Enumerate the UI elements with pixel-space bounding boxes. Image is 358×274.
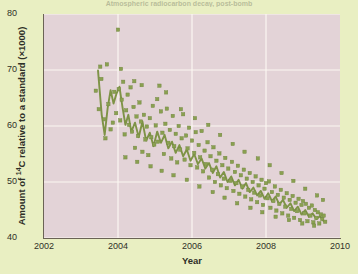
data-point (104, 137, 107, 140)
data-point (312, 221, 315, 224)
data-point (230, 160, 233, 163)
data-point (170, 157, 173, 160)
y-axis-title-prefix: Amount of (16, 175, 27, 225)
data-point (210, 168, 213, 171)
y-tick-label-40: 40 (0, 233, 17, 242)
data-point (133, 146, 136, 149)
data-point (185, 178, 188, 181)
data-point (249, 206, 252, 209)
data-point (154, 124, 157, 127)
data-point (238, 192, 241, 195)
data-point (244, 195, 247, 198)
data-point (114, 111, 117, 114)
data-point (181, 113, 184, 116)
data-point (233, 170, 236, 173)
data-point (219, 184, 222, 187)
y-tick-label-50: 50 (0, 177, 17, 186)
y-axis-title-suffix: C relative to a standard (×1000) (16, 27, 27, 168)
data-point (156, 140, 159, 143)
data-point (285, 192, 288, 195)
data-point (266, 197, 269, 200)
data-point (145, 125, 148, 128)
data-point (200, 129, 203, 132)
data-point (231, 142, 234, 145)
data-point (206, 141, 209, 144)
data-point (275, 209, 278, 212)
data-point (257, 184, 260, 187)
data-point (127, 123, 130, 126)
data-point (94, 89, 97, 92)
data-point (147, 153, 150, 156)
x-axis-title: Year (44, 255, 340, 266)
data-point (177, 124, 180, 127)
data-point (288, 198, 291, 201)
data-point (132, 105, 135, 108)
data-point (158, 84, 161, 87)
data-point (280, 171, 283, 174)
data-point (254, 175, 257, 178)
data-point (256, 157, 259, 160)
data-point (263, 187, 266, 190)
data-point (315, 194, 318, 197)
data-point (148, 116, 151, 119)
data-point (174, 132, 177, 135)
data-point (292, 216, 295, 219)
data-point (291, 194, 294, 197)
data-point (139, 120, 142, 123)
data-point (221, 164, 224, 167)
data-point (119, 119, 122, 122)
data-point (284, 205, 287, 208)
data-point (250, 198, 253, 201)
y-tick-label-70: 70 (0, 65, 17, 74)
data-point (193, 151, 196, 154)
data-point (144, 138, 147, 141)
data-point (310, 204, 313, 207)
data-point (150, 136, 153, 139)
scatter-plot-area (44, 14, 340, 238)
data-point (301, 222, 304, 225)
data-point (324, 220, 327, 223)
data-point (274, 215, 277, 218)
data-point (194, 130, 197, 133)
data-point (212, 146, 215, 149)
data-point (279, 188, 282, 191)
data-point (130, 130, 133, 133)
data-point (120, 98, 123, 101)
data-point (287, 218, 290, 221)
y-tick-label-80: 80 (0, 9, 17, 18)
data-point (156, 97, 159, 100)
data-point (225, 186, 228, 189)
data-point (309, 214, 312, 217)
data-point (222, 177, 225, 180)
data-point (261, 211, 264, 214)
data-point (242, 168, 245, 171)
data-point (164, 122, 167, 125)
data-point (123, 133, 126, 136)
data-point (282, 196, 285, 199)
data-point (111, 121, 114, 124)
data-point (252, 191, 255, 194)
data-point (281, 212, 284, 215)
data-point (304, 202, 307, 205)
data-point (239, 174, 242, 177)
data-point (142, 113, 145, 116)
chart-title-cropped: Atmospheric radiocarbon decay, post-bomb (0, 0, 358, 7)
data-point (289, 207, 292, 210)
data-point (113, 90, 116, 93)
data-point (295, 209, 298, 212)
data-point (260, 178, 263, 181)
data-point (141, 150, 144, 153)
data-point (195, 166, 198, 169)
data-point (100, 77, 103, 80)
data-point (189, 164, 192, 167)
data-point (211, 190, 214, 193)
data-point (304, 187, 307, 190)
data-point (119, 67, 122, 70)
data-point (129, 86, 132, 89)
data-point (287, 214, 290, 217)
data-point (318, 222, 321, 225)
data-point (201, 170, 204, 173)
data-point (235, 181, 238, 184)
data-point (292, 179, 295, 182)
x-axis-spine (43, 238, 341, 239)
